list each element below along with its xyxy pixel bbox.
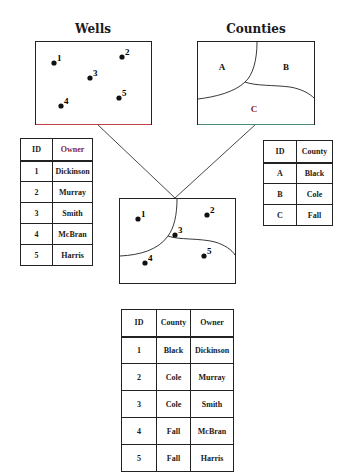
overlay-point-5 <box>201 253 206 258</box>
county-table-row: CFall <box>264 205 333 226</box>
wells-point-2 <box>119 54 124 59</box>
owner-table-cell: 5 <box>21 245 53 266</box>
result-table-cell: Cole <box>157 364 191 391</box>
county-table: ID County ABlackBColeCFall <box>263 140 333 226</box>
overlay-point-1 <box>135 216 140 221</box>
county-table-header-id: ID <box>264 141 297 163</box>
county-table-row: ABlack <box>264 163 333 184</box>
county-table-cell: Cole <box>297 184 333 205</box>
result-table-header-owner: Owner <box>191 310 234 337</box>
owner-table-cell: Harris <box>53 245 93 266</box>
overlay-point-label: 2 <box>210 205 215 215</box>
result-table-row: 2ColeMurray <box>122 364 234 391</box>
result-table: ID County Owner 1BlackDickinson2ColeMurr… <box>121 309 234 472</box>
result-table-cell: Smith <box>191 391 234 418</box>
overlay-point-2 <box>204 212 209 217</box>
owner-table-cell: 2 <box>21 182 53 203</box>
result-table-row: 1BlackDickinson <box>122 337 234 364</box>
result-table-cell: Dickinson <box>191 337 234 364</box>
owner-table-header-id: ID <box>21 139 53 161</box>
result-table-cell: Fall <box>157 418 191 445</box>
county-region-label: C <box>251 104 258 114</box>
county-table-cell: Black <box>297 163 333 184</box>
owner-table-row: 2Murray <box>21 182 93 203</box>
overlay-map: 12345 <box>120 199 236 284</box>
wells-point-label: 3 <box>93 68 98 78</box>
result-table-cell: Harris <box>191 445 234 472</box>
owner-table: ID Owner 1Dickinson2Murray3Smith4McBran5… <box>20 138 93 266</box>
wells-map: 12345 <box>36 42 152 125</box>
result-table-cell: 1 <box>122 337 157 364</box>
overlay-point-4 <box>142 260 147 265</box>
wells-point-label: 1 <box>57 53 62 63</box>
county-table-cell: A <box>264 163 297 184</box>
overlay-point-label: 3 <box>178 225 183 235</box>
wells-point-4 <box>58 103 63 108</box>
counties-map: ABC <box>198 42 315 125</box>
result-table-header-id: ID <box>122 310 157 337</box>
wells-point-1 <box>51 60 56 65</box>
result-table-cell: Murray <box>191 364 234 391</box>
owner-table-cell: McBran <box>53 224 93 245</box>
overlay-point-label: 1 <box>141 209 146 219</box>
owner-table-cell: 3 <box>21 203 53 224</box>
county-region-label: B <box>283 62 289 72</box>
wells-point-5 <box>116 95 121 100</box>
owner-table-row: 4McBran <box>21 224 93 245</box>
connector-line-counties <box>175 124 256 198</box>
overlay-point-label: 4 <box>148 253 153 263</box>
result-table-cell: Black <box>157 337 191 364</box>
owner-table-row: 1Dickinson <box>21 161 93 182</box>
owner-table-row: 5Harris <box>21 245 93 266</box>
county-table-row: BCole <box>264 184 333 205</box>
result-table-cell: 3 <box>122 391 157 418</box>
result-table-cell: McBran <box>191 418 234 445</box>
county-table-header-county: County <box>297 141 333 163</box>
owner-table-cell: 4 <box>21 224 53 245</box>
owner-table-header-owner: Owner <box>53 139 93 161</box>
county-table-cell: B <box>264 184 297 205</box>
result-table-cell: Fall <box>157 445 191 472</box>
result-table-row: 4FallMcBran <box>122 418 234 445</box>
wells-point-3 <box>87 75 92 80</box>
result-table-header-county: County <box>157 310 191 337</box>
result-table-cell: Cole <box>157 391 191 418</box>
county-table-cell: Fall <box>297 205 333 226</box>
result-table-cell: 4 <box>122 418 157 445</box>
result-table-row: 5FallHarris <box>122 445 234 472</box>
wells-point-label: 4 <box>64 96 69 106</box>
owner-table-cell: 1 <box>21 161 53 182</box>
owner-table-cell: Murray <box>53 182 93 203</box>
result-table-cell: 2 <box>122 364 157 391</box>
owner-table-row: 3Smith <box>21 203 93 224</box>
county-region-label: A <box>219 62 226 72</box>
wells-point-label: 2 <box>125 47 130 57</box>
overlay-point-label: 5 <box>207 246 212 256</box>
wells-point-label: 5 <box>122 88 127 98</box>
county-table-cell: C <box>264 205 297 226</box>
result-table-cell: 5 <box>122 445 157 472</box>
owner-table-cell: Dickinson <box>53 161 93 182</box>
owner-table-cell: Smith <box>53 203 93 224</box>
overlay-point-3 <box>172 232 177 237</box>
result-table-row: 3ColeSmith <box>122 391 234 418</box>
connector-line-wells <box>97 124 175 198</box>
